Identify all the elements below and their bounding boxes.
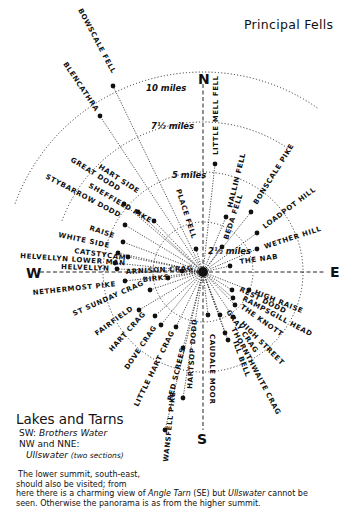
fell-label: WANSFELL PIKE [162,391,177,462]
fell-marker [223,331,228,336]
fell-marker [206,313,211,318]
ring-label: 7½ miles [151,121,194,131]
fell-label: LOADPOT HILL [261,186,317,231]
fell-label: HELVELLYN [61,263,110,273]
fell-marker [115,267,120,272]
lakes-row-sw: SW: Brothers Water [19,428,124,439]
diagram-title: Principal Fells [244,17,333,32]
summit-marker [198,267,208,277]
fell-marker [123,223,128,228]
fell-marker [255,231,260,236]
fell-marker [249,210,254,215]
fell-label: LITTLE MELL FELL [212,75,220,155]
fell-marker [230,288,235,293]
ring-label: 2½ miles [208,246,251,256]
fell-marker [148,288,153,293]
fell-label: BIRKS [142,273,169,284]
lake-name: Ullswater [26,450,68,460]
fell-marker [233,303,238,308]
note-text: here there is a charming view of [16,489,148,498]
fell-labels: BOWSCALE FELLBLENCATHRALITTLE MELL FELLH… [20,7,323,462]
fell-label: HARTSOP DODD [186,318,199,389]
fell-marker [231,296,236,301]
fell-marker [218,313,223,318]
sight-line [203,272,208,315]
sight-line [100,116,203,272]
fell-label: PLACE FELL [174,188,198,240]
fell-marker [213,162,218,167]
fell-marker [226,338,231,343]
note-line: should also be visited; from [16,480,353,490]
note-line: here there is a charming view of Angle T… [16,489,353,499]
lakes-row-nw: NW and NNE: [19,439,124,450]
lake-note: (two sections) [71,451,124,460]
fell-marker [159,323,164,328]
note-line: The lower summit, south-east, [18,470,353,480]
fell-marker [174,325,179,330]
fell-label: CAUDALE MOOR [208,334,216,404]
ring-label: 5 miles [172,170,206,180]
fell-marker [153,314,158,319]
fell-marker [123,279,128,284]
summit-note: The lower summit, south-east, should als… [16,470,353,508]
note-text: (SE) but [191,489,228,498]
lakes-heading: Lakes and Tarns [16,411,124,427]
lakes-direction: SW: [19,428,36,438]
lake-name: Brothers Water [39,428,107,438]
fell-label: BLENCATHRA [61,61,100,113]
compass-w: W [26,265,41,281]
compass-n: N [198,71,210,87]
fell-label: NETHERMOST PIKE [32,280,116,297]
compass-e: E [330,264,340,280]
fell-marker [111,84,116,89]
lakes-direction: NW and NNE: [19,439,79,449]
fell-marker [194,247,199,252]
fell-marker [152,219,157,224]
lake-name: Ullswater [228,489,265,498]
fell-marker [181,396,186,401]
fell-label: BOWSCALE FELL [76,7,117,75]
lakes-row-ullswater: Ullswater (two sections) [26,450,124,461]
fell-marker [121,240,126,245]
fell-marker [98,114,103,119]
ring-label: 10 miles [146,83,186,93]
lakes-and-tarns: Lakes and Tarns SW: Brothers Water NW an… [16,411,124,461]
fell-label: BONSCALE PIKE [252,142,296,206]
tarn-name: Angle Tarn [148,489,191,498]
fell-marker [255,247,260,252]
compass-s: S [197,431,207,447]
fell-marker [228,264,233,269]
note-text: cannot be [265,489,308,498]
note-line: seen. Otherwise the panorama is as from … [16,499,353,509]
